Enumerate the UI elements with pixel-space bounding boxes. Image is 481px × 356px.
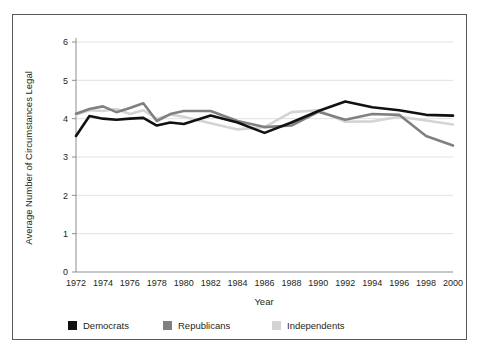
legend-label-independents: Independents [287, 320, 345, 331]
x-tick-label: 1982 [201, 278, 221, 288]
x-tick-label: 1976 [120, 278, 140, 288]
y-tick-label: 1 [63, 229, 68, 239]
legend-label-republicans: Republicans [178, 320, 231, 331]
y-axis-tick-labels: 0123456 [63, 37, 76, 277]
y-tick-label: 6 [63, 37, 68, 47]
x-axis-title: Year [254, 296, 273, 307]
x-tick-label: 1974 [93, 278, 113, 288]
x-tick-label: 1988 [281, 278, 301, 288]
x-tick-label: 1990 [308, 278, 328, 288]
x-tick-label: 1972 [66, 278, 86, 288]
x-tick-label: 2000 [443, 278, 463, 288]
plot-axes [76, 38, 453, 272]
x-tick-label: 1986 [254, 278, 274, 288]
x-tick-label: 1994 [362, 278, 382, 288]
figure-container: 0123456 19721974197619781980198219841986… [0, 0, 481, 356]
y-tick-label: 4 [63, 114, 68, 124]
y-tick-label: 0 [63, 267, 68, 277]
x-tick-label: 1980 [174, 278, 194, 288]
legend-swatch-democrats [68, 321, 77, 330]
x-tick-label: 1992 [335, 278, 355, 288]
legend-label-democrats: Democrats [83, 320, 129, 331]
data-series-group [76, 101, 453, 145]
y-axis-title: Average Number of Circumstances Legal [23, 71, 34, 245]
x-tick-label: 1984 [228, 278, 248, 288]
x-tick-label: 1978 [147, 278, 167, 288]
y-tick-label: 5 [63, 76, 68, 86]
x-tick-label: 1996 [389, 278, 409, 288]
y-tick-label: 3 [63, 152, 68, 162]
line-chart: 0123456 19721974197619781980198219841986… [0, 0, 481, 356]
y-gridlines [76, 42, 453, 234]
x-axis-tick-labels: 1972197419761978198019821984198619881990… [66, 278, 463, 288]
y-tick-label: 2 [63, 191, 68, 201]
legend-swatch-independents [272, 321, 281, 330]
x-tick-label: 1998 [416, 278, 436, 288]
legend-swatch-republicans [163, 321, 172, 330]
chart-legend: DemocratsRepublicansIndependents [68, 320, 345, 331]
